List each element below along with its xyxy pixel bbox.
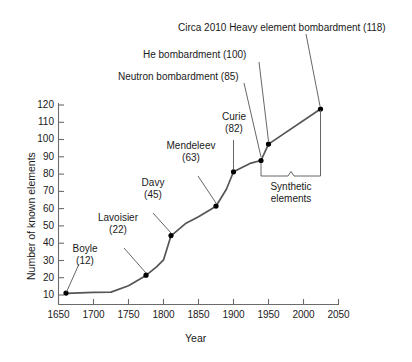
annotation-boyle-value: (12): [64, 255, 106, 267]
annotation-mendeleev-name: Mendeleev: [167, 140, 216, 151]
annotation-lavoisier-value: (22): [90, 224, 146, 236]
annotation-boyle-name: Boyle: [72, 243, 97, 254]
leader-heavy: [306, 34, 320, 106]
annotation-mendeleev: Mendeleev (63): [158, 140, 224, 163]
leader-mendeleev: [198, 176, 216, 203]
x-tick-label-1750: 1750: [109, 310, 149, 320]
annotation-davy-value: (45): [132, 189, 174, 201]
annotation-lavoisier-name: Lavoisier: [98, 212, 138, 223]
annotation-synthetic-line1: Synthetic: [270, 181, 311, 192]
x-tick-label-1850: 1850: [179, 310, 219, 320]
annotation-curie-value: (82): [213, 123, 255, 135]
chart-figure: 120 110 100 90 80 70 60 50 40 30 20 10 1…: [0, 0, 412, 362]
x-tick-label-1650: 1650: [39, 310, 79, 320]
x-tick-label-2000: 2000: [284, 310, 324, 320]
data-point-curie: [231, 169, 236, 174]
annotation-curie: Curie (82): [213, 111, 255, 134]
annotation-davy-name: Davy: [142, 177, 165, 188]
annotation-he-bombardment: He bombardment (100): [143, 49, 246, 61]
data-point-he: [266, 142, 271, 147]
y-tick-label-10: 10: [32, 290, 54, 300]
data-point-lavoisier: [143, 273, 148, 278]
annotation-mendeleev-value: (63): [158, 152, 224, 164]
annotation-lavoisier: Lavoisier (22): [90, 212, 146, 235]
annotation-heavy-bombardment: Circa 2010 Heavy element bombardment (11…: [178, 22, 386, 34]
x-tick-marks: [59, 299, 339, 305]
x-tick-label-2050: 2050: [319, 310, 359, 320]
leader-lavoisier: [124, 248, 146, 273]
x-tick-label-1800: 1800: [144, 310, 184, 320]
leader-davy: [153, 213, 171, 233]
annotation-synthetic-elements: Synthetic elements: [258, 181, 324, 204]
data-point-neutron: [258, 158, 263, 163]
y-axis-title: Number of known elements: [26, 152, 37, 280]
annotation-neutron-bombardment: Neutron bombardment (85): [118, 71, 239, 83]
annotation-synthetic-line2: elements: [258, 193, 324, 205]
x-tick-label-1900: 1900: [214, 310, 254, 320]
data-point-boyle: [63, 291, 68, 296]
data-point-mendeleev: [213, 204, 218, 209]
y-tick-label-100: 100: [32, 134, 54, 144]
annotation-boyle: Boyle (12): [64, 243, 106, 266]
annotation-curie-name: Curie: [222, 111, 246, 122]
annotation-davy: Davy (45): [132, 177, 174, 200]
y-tick-label-120: 120: [32, 100, 54, 110]
leader-he: [259, 62, 269, 141]
y-tick-marks: [59, 105, 65, 295]
y-tick-label-110: 110: [32, 117, 54, 127]
x-tick-label-1950: 1950: [249, 310, 289, 320]
x-axis-title: Year: [185, 333, 206, 344]
x-tick-label-1700: 1700: [74, 310, 114, 320]
data-point-davy: [168, 233, 173, 238]
leader-boyle: [67, 264, 80, 292]
